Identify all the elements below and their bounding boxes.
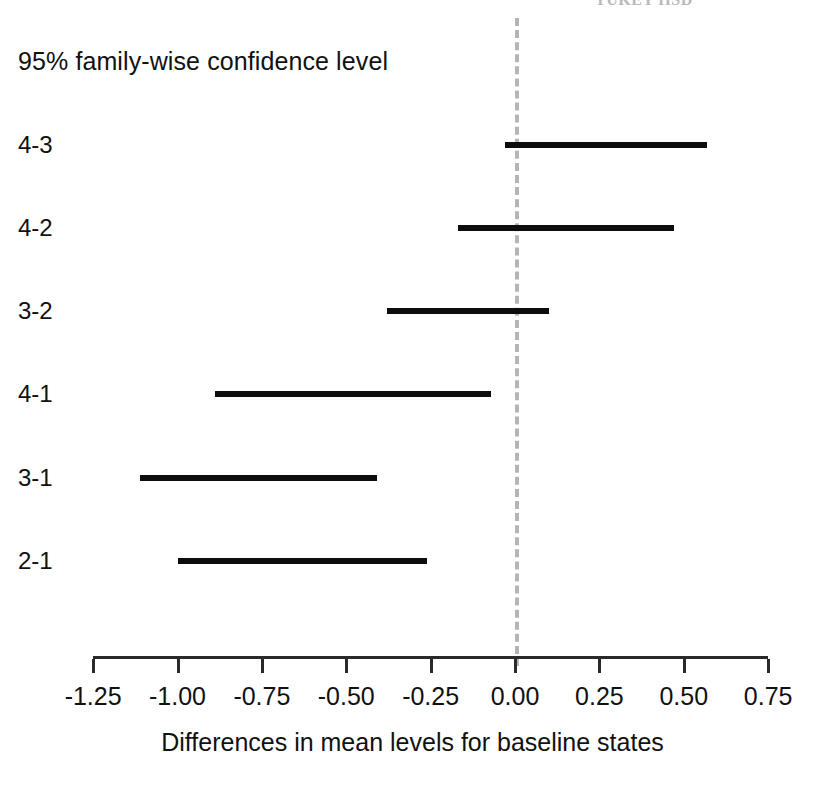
x-axis-tick	[430, 659, 433, 673]
x-axis-tick-label: -0.50	[318, 682, 375, 711]
zero-reference-line	[515, 18, 519, 666]
confidence-interval-bar	[140, 475, 376, 481]
interval-row-label: 4-2	[18, 214, 53, 242]
x-axis-tick-label: 0.50	[659, 682, 708, 711]
x-axis-tick	[345, 659, 348, 673]
confidence-interval-bar	[387, 308, 549, 314]
x-axis-tick-label: 0.75	[744, 682, 793, 711]
x-axis-tick-label: 0.25	[575, 682, 624, 711]
x-axis-tick-label: 0.00	[491, 682, 540, 711]
interval-row-label: 2-1	[18, 547, 53, 575]
confidence-interval-bar	[178, 558, 428, 564]
x-axis-title: Differences in mean levels for baseline …	[0, 728, 825, 757]
confidence-level-label: 95% family-wise confidence level	[18, 47, 388, 76]
x-axis-tick	[261, 659, 264, 673]
x-axis-tick	[683, 659, 686, 673]
clipped-header-text: TUKEY HSD	[595, 0, 815, 9]
interval-row-label: 3-1	[18, 464, 53, 492]
confidence-interval-bar	[505, 142, 708, 148]
x-axis-tick	[598, 659, 601, 673]
confidence-interval-bar	[215, 391, 492, 397]
x-axis-tick-label: -0.75	[233, 682, 290, 711]
interval-row-label: 3-2	[18, 297, 53, 325]
x-axis-tick-label: -1.00	[149, 682, 206, 711]
x-axis-tick-label: -1.25	[65, 682, 122, 711]
tukey-hsd-plot: TUKEY HSD 95% family-wise confidence lev…	[0, 0, 825, 788]
x-axis-tick	[177, 659, 180, 673]
x-axis-tick	[767, 659, 770, 673]
x-axis-tick	[92, 659, 95, 673]
interval-row-label: 4-1	[18, 380, 53, 408]
interval-row-label: 4-3	[18, 131, 53, 159]
confidence-interval-bar	[458, 225, 674, 231]
x-axis-tick	[514, 659, 517, 673]
x-axis-tick-label: -0.25	[402, 682, 459, 711]
